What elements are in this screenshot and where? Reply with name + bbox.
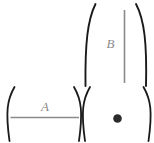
right-parenthesis-b-icon <box>136 4 146 86</box>
label-b: B <box>107 36 115 51</box>
group-horizontal-measure: A <box>7 87 81 141</box>
group-vertical-measure: B <box>85 4 146 86</box>
math-notation-figure: B A <box>0 0 154 143</box>
right-parenthesis-dot-icon <box>144 87 151 141</box>
left-parenthesis-a-icon <box>7 87 14 141</box>
group-point <box>83 87 151 141</box>
right-parenthesis-a-icon <box>74 87 81 141</box>
label-a: A <box>40 99 49 114</box>
left-parenthesis-b-icon <box>85 4 95 86</box>
center-dot-icon <box>113 114 122 123</box>
figure-canvas: B A <box>0 0 154 143</box>
left-parenthesis-dot-icon <box>83 87 90 141</box>
